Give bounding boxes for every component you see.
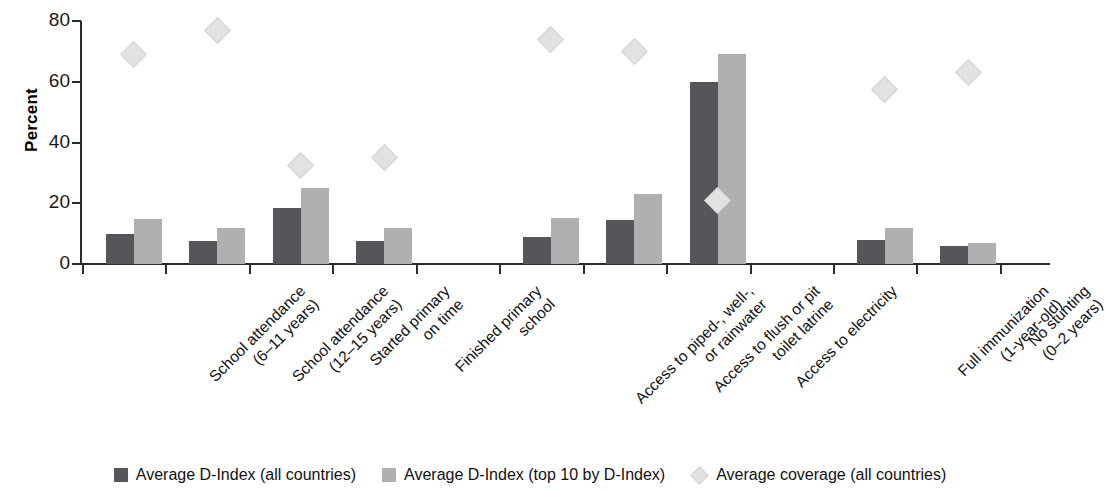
coverage-diamond-marker (538, 26, 565, 53)
coverage-diamond-marker (204, 17, 231, 44)
bar (885, 228, 913, 264)
coverage-diamond-marker (955, 59, 982, 86)
bar (606, 220, 634, 264)
legend-diamond-icon (690, 466, 708, 484)
bar (134, 219, 162, 264)
coverage-diamond-marker (871, 76, 898, 103)
y-tick-label: 0 (0, 252, 70, 274)
coverage-diamond-marker (371, 144, 398, 171)
bar (634, 194, 662, 264)
y-tick-label: 60 (0, 70, 70, 92)
y-tick-label: 80 (0, 9, 70, 31)
bar (940, 246, 968, 264)
bar (301, 188, 329, 264)
bar (106, 234, 134, 264)
x-tick (416, 265, 418, 274)
legend-square-icon (382, 468, 396, 482)
bar (273, 208, 301, 264)
legend-label: Average D-Index (top 10 by D-Index) (404, 466, 665, 484)
x-tick (833, 265, 835, 274)
bar (968, 243, 996, 264)
legend-item: Average D-Index (top 10 by D-Index) (382, 466, 665, 484)
y-tick (72, 202, 81, 204)
x-tick (499, 265, 501, 274)
x-tick (583, 265, 585, 274)
legend-square-icon (114, 468, 128, 482)
bar (690, 82, 718, 264)
y-tick-label: 20 (0, 191, 70, 213)
x-tick (750, 265, 752, 274)
plot-area (82, 21, 1050, 264)
legend-label: Average D-Index (all countries) (136, 466, 356, 484)
y-tick (72, 81, 81, 83)
x-tick (1000, 265, 1002, 274)
x-tick (666, 265, 668, 274)
y-tick (72, 263, 81, 265)
bar (189, 241, 217, 264)
bar (523, 237, 551, 264)
coverage-diamond-marker (287, 152, 314, 179)
x-axis-label: Finished primaryschool (452, 282, 560, 390)
x-tick (249, 265, 251, 274)
coverage-diamond-marker (120, 41, 147, 68)
y-tick-label: 40 (0, 131, 70, 153)
coverage-diamond-marker (621, 38, 648, 65)
x-tick (916, 265, 918, 274)
legend-item: Average coverage (all countries) (691, 466, 946, 484)
bar (356, 241, 384, 264)
chart-legend: Average D-Index (all countries)Average D… (0, 466, 1060, 484)
bar (217, 228, 245, 264)
legend-item: Average D-Index (all countries) (114, 466, 356, 484)
y-tick (72, 142, 81, 144)
legend-label: Average coverage (all countries) (716, 466, 946, 484)
y-tick (72, 20, 81, 22)
x-tick (82, 265, 84, 274)
bar (551, 218, 579, 264)
bar (857, 240, 885, 264)
bar (384, 228, 412, 264)
x-tick (332, 265, 334, 274)
x-tick (165, 265, 167, 274)
bar (718, 54, 746, 264)
